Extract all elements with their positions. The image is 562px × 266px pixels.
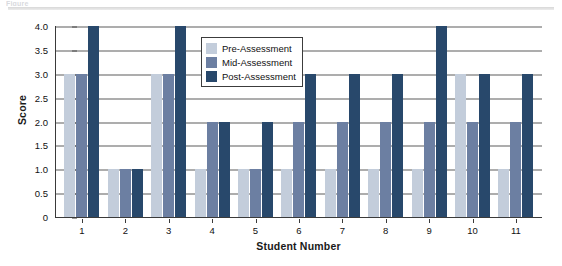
x-ticklabel: 1 — [67, 225, 97, 236]
legend-item-post: Post-Assessment — [206, 69, 296, 83]
x-tickmark — [516, 219, 517, 223]
bar-post — [522, 74, 533, 217]
x-tickmark — [429, 219, 430, 223]
bar-group — [412, 26, 447, 217]
bar-group — [325, 26, 360, 217]
bar-pre — [412, 169, 423, 217]
bar-mid — [293, 122, 304, 218]
bar-group — [108, 26, 143, 217]
x-axis-line — [55, 217, 542, 218]
bar-mid — [510, 122, 521, 218]
bar-pre — [64, 74, 75, 217]
y-ticklabel: 4.0 — [35, 22, 48, 32]
bar-pre — [498, 169, 509, 217]
legend-label-post: Post-Assessment — [222, 71, 296, 82]
bar-pre — [281, 169, 292, 217]
y-ticklabel: 1.5 — [35, 142, 48, 152]
bar-pre — [238, 169, 249, 217]
bar-mid — [250, 169, 261, 217]
bar-mid — [380, 122, 391, 218]
x-tickmark — [386, 219, 387, 223]
x-axis-ticklabels: 1234567891011 — [55, 219, 542, 239]
x-ticklabel: 11 — [501, 225, 531, 236]
bar-post — [436, 26, 447, 217]
y-ticklabel: 1.0 — [35, 166, 48, 176]
x-tickmark — [256, 219, 257, 223]
x-ticklabel: 9 — [414, 225, 444, 236]
y-ticklabel: 0 — [43, 213, 48, 223]
bar-pre — [108, 169, 119, 217]
x-ticklabel: 3 — [154, 225, 184, 236]
x-tickmark — [473, 219, 474, 223]
y-ticklabel: 3.5 — [35, 46, 48, 56]
bar-post — [349, 74, 360, 217]
y-ticklabel: 3.0 — [35, 70, 48, 80]
bar-post — [479, 74, 490, 217]
legend-swatch-pre-icon — [206, 43, 217, 54]
bar-mid — [337, 122, 348, 218]
bar-pre — [151, 74, 162, 217]
x-ticklabel: 10 — [458, 225, 488, 236]
x-ticklabel: 8 — [371, 225, 401, 236]
bar-group — [368, 26, 403, 217]
bar-post — [219, 122, 230, 218]
legend-item-mid: Mid-Assessment — [206, 55, 296, 69]
bar-post — [88, 26, 99, 217]
x-tickmark — [125, 219, 126, 223]
x-tickmark — [342, 219, 343, 223]
x-ticklabel: 2 — [110, 225, 140, 236]
bar-mid — [120, 169, 131, 217]
y-axis-ticklabels: 00.51.01.52.02.53.03.54.0 — [22, 26, 48, 218]
y-ticklabel: 2.0 — [35, 118, 48, 128]
x-tickmark — [169, 219, 170, 223]
bar-post — [132, 169, 143, 217]
bar-post — [392, 74, 403, 217]
legend-item-pre: Pre-Assessment — [206, 41, 296, 55]
legend-swatch-post-icon — [206, 71, 217, 82]
bar-mid — [467, 122, 478, 218]
legend-label-mid: Mid-Assessment — [222, 57, 292, 68]
bar-pre — [455, 74, 466, 217]
bar-post — [305, 74, 316, 217]
x-axis-title: Student Number — [55, 240, 542, 252]
bar-group — [151, 26, 186, 217]
x-tickmark — [82, 219, 83, 223]
bar-group — [455, 26, 490, 217]
bar-mid — [424, 122, 435, 218]
x-ticklabel: 6 — [284, 225, 314, 236]
bar-mid — [76, 74, 87, 217]
y-ticklabel: 2.5 — [35, 94, 48, 104]
bar-group — [64, 26, 99, 217]
bar-mid — [207, 122, 218, 218]
y-ticklabel: 0.5 — [35, 189, 48, 199]
x-ticklabel: 7 — [327, 225, 357, 236]
x-ticklabel: 4 — [197, 225, 227, 236]
header-rule — [8, 7, 554, 10]
bar-group — [498, 26, 533, 217]
bar-pre — [368, 169, 379, 217]
figure-caption-fragment: Figure — [6, 0, 29, 6]
bar-post — [262, 122, 273, 218]
bar-pre — [195, 169, 206, 217]
bar-chart-figure: Score 00.51.01.52.02.53.03.54.0 Pre-Asse… — [0, 12, 562, 266]
legend-swatch-mid-icon — [206, 57, 217, 68]
bar-post — [175, 26, 186, 217]
x-tickmark — [212, 219, 213, 223]
bar-mid — [163, 74, 174, 217]
chart-legend: Pre-Assessment Mid-Assessment Post-Asses… — [201, 37, 303, 87]
x-ticklabel: 5 — [241, 225, 271, 236]
x-tickmark — [299, 219, 300, 223]
legend-label-pre: Pre-Assessment — [222, 43, 292, 54]
bar-pre — [325, 169, 336, 217]
